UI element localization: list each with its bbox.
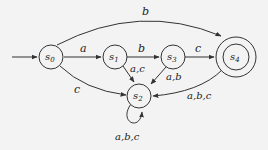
state-s0: s0 [39, 45, 63, 69]
label-s0-s4: b [142, 5, 149, 18]
label-s4-s2: a,b,c [187, 90, 212, 101]
label-s3-s2: a,b [166, 71, 182, 82]
label-s1-s3: b [138, 42, 145, 55]
state-s4-accepting: s4 [216, 37, 256, 77]
edge-s0-s2 [60, 66, 126, 95]
state-s3: s3 [161, 45, 185, 69]
state-s1: s1 [103, 45, 127, 69]
state-s2: s2 [127, 84, 151, 108]
label-s3-s4: c [195, 42, 201, 55]
label-s0-s2: c [74, 83, 80, 96]
edge-s3-s2 [151, 67, 166, 84]
label-s0-s1: a [80, 42, 87, 55]
label-s2-self-loop: a,b,c [115, 131, 140, 142]
automaton-diagram: a b c b c a,c a,b a,b,c a,b,c s0 s1 s3 s… [0, 0, 268, 150]
label-s1-s2: a,c [130, 63, 145, 74]
